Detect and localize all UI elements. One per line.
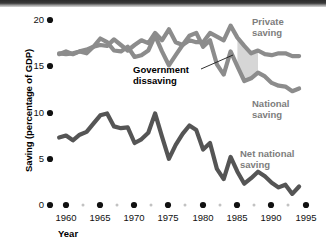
y-axis-tick-dots [47,17,53,208]
y-tick-label-10: 10 [22,107,44,118]
x-tick-label-1975: 1975 [153,212,183,223]
annotation-government-dissaving-line1: Government [133,64,189,75]
chart-figure: Saving (percentage of GDP) 20 15 10 5 0 … [0,0,326,249]
series-label-net-national-saving: Net national saving [240,148,294,170]
annotation-government-dissaving: Government dissaving [133,64,189,86]
series-label-national-saving-line2: saving [252,109,282,120]
x-axis-title: Year [58,228,78,239]
x-tick-label-1985: 1985 [222,212,252,223]
x-tick-label-1980: 1980 [188,212,218,223]
annotation-government-dissaving-line2: dissaving [133,75,177,86]
y-tick-label-5: 5 [22,153,44,164]
x-tick-label-1990: 1990 [256,212,286,223]
series-label-national-saving: National saving [252,98,289,120]
x-tick-label-1965: 1965 [85,212,115,223]
series-label-private-saving-line2: saving [252,27,282,38]
series-label-national-saving-line1: National [252,98,289,109]
series-label-private-saving: Private saving [252,16,284,38]
y-tick-label-20: 20 [22,14,44,25]
x-axis-tick-dots [63,202,309,208]
y-tick-label-0: 0 [22,199,44,210]
y-tick-label-15: 15 [22,60,44,71]
x-tick-label-1960: 1960 [51,212,81,223]
series-label-net-national-saving-line1: Net national [240,148,294,159]
series-label-private-saving-line1: Private [252,16,284,27]
series-label-net-national-saving-line2: saving [240,159,270,170]
x-tick-label-1970: 1970 [119,212,149,223]
x-tick-label-1995: 1995 [291,212,321,223]
